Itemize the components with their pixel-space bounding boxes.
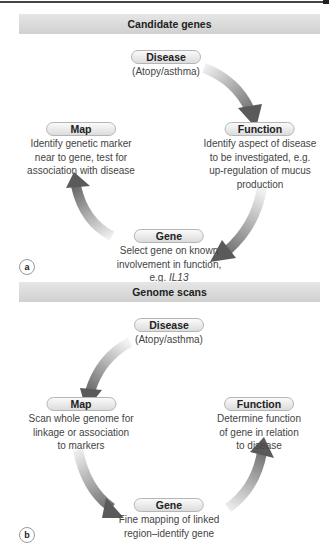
map-desc-line: to markers <box>28 440 133 453</box>
panel-b-function-node: Function Determine function of gene in r… <box>217 394 301 453</box>
gene-desc-line: Fine mapping of linked <box>119 514 220 527</box>
gene-desc-line: involvement in function, <box>117 259 222 272</box>
map-pill: Map <box>46 397 116 411</box>
function-pill: Function <box>224 397 294 411</box>
disease-desc: (Atopy/asthma) <box>131 66 201 79</box>
panel-b-map-node: Map Scan whole genome for linkage or ass… <box>28 394 133 453</box>
gene-pill: Gene <box>134 229 204 243</box>
gene-pill: Gene <box>134 498 204 512</box>
function-desc-line: Identify aspect of disease <box>204 138 317 151</box>
function-desc-line: of gene in relation <box>217 427 301 440</box>
panel-a-gene-node: Gene Select gene on known involvement in… <box>117 226 222 285</box>
map-desc-line: Scan whole genome for <box>28 413 133 426</box>
panel-a-disease-node: Disease (Atopy/asthma) <box>131 47 201 79</box>
panel-a-title: Candidate genes <box>19 14 320 34</box>
panel-b-label: b <box>19 527 35 543</box>
map-desc-line: association with disease <box>27 165 135 178</box>
panel-a-function-node: Function Identify aspect of disease to b… <box>204 119 317 191</box>
panel-b-disease-node: Disease (Atopy/asthma) <box>134 315 204 347</box>
map-desc-line: near to gene, test for <box>27 152 135 165</box>
arrow-gene-to-map <box>66 172 112 236</box>
panel-a-label: a <box>19 259 35 275</box>
function-desc-line: Determine function <box>217 413 301 426</box>
disease-pill: Disease <box>134 318 204 332</box>
panel-b-gene-node: Gene Fine mapping of linked region–ident… <box>119 495 220 540</box>
function-desc-line: to be investigated, e.g. <box>204 152 317 165</box>
function-desc-line: production <box>204 179 317 192</box>
function-pill: Function <box>225 122 295 136</box>
arrow-map-to-gene <box>78 450 124 518</box>
disease-desc: (Atopy/asthma) <box>134 334 204 347</box>
disease-pill: Disease <box>131 50 201 64</box>
panel-a-map-node: Map Identify genetic marker near to gene… <box>27 119 135 178</box>
function-desc-line: up-regulation of mucus <box>204 165 317 178</box>
panel-b-title: Genome scans <box>19 282 320 302</box>
map-desc-line: Identify genetic marker <box>27 138 135 151</box>
gene-desc-line: region–identify gene <box>119 528 220 541</box>
map-desc-line: linkage or association <box>28 427 133 440</box>
map-pill: Map <box>46 122 116 136</box>
function-desc-line: to disease <box>217 440 301 453</box>
gene-desc-line: Select gene on known <box>117 245 222 258</box>
